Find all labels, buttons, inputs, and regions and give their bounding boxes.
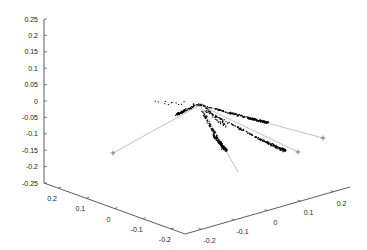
axes [44, 19, 350, 234]
right-tick [331, 191, 334, 192]
left-tick-label: 0 [107, 216, 111, 223]
left-tick-label: 0.1 [75, 205, 85, 212]
z-tick-label: 0.1 [28, 65, 38, 72]
left-tick [143, 218, 146, 219]
direction-line [200, 105, 238, 172]
right-tick-label: 0.1 [304, 209, 314, 216]
z-tick-label: 0.15 [24, 48, 38, 55]
z-tick-label: -0.1 [26, 130, 38, 137]
z-tick-label: 0.25 [24, 16, 38, 23]
direction-lines [111, 105, 326, 172]
left-tick [115, 208, 118, 209]
right-tick [298, 200, 301, 201]
z-tick-label: -0.25 [22, 180, 38, 187]
direction-line [200, 105, 298, 152]
left-tick-label: -0.1 [131, 226, 143, 233]
point-cloud [155, 101, 287, 153]
left-tick-label: 0.2 [47, 195, 57, 202]
right-tick-label: -0.2 [203, 237, 215, 244]
z-axis-ticks: 0.250.20.150.10.050-0.05-0.1-0.15-0.2-0.… [22, 16, 47, 187]
left-axis-ticks: 0.20.10-0.1-0.2 [47, 187, 174, 243]
right-tick-label: 0 [274, 219, 278, 226]
z-tick-label: -0.15 [22, 147, 38, 154]
left-tick [58, 187, 61, 188]
right-tick [232, 219, 235, 220]
z-tick-label: 0 [34, 98, 38, 105]
right-tick-label: -0.1 [236, 228, 248, 235]
plus-marker-icon [321, 136, 326, 141]
right-tick [265, 210, 268, 211]
plus-marker-icon [111, 151, 116, 156]
right-axis-ticks: -0.2-0.100.10.2 [199, 191, 347, 245]
right-tick-label: 0.2 [337, 200, 347, 207]
left-tick [171, 228, 174, 229]
z-tick-label: 0.05 [24, 81, 38, 88]
z-tick-label: -0.05 [22, 114, 38, 121]
z-tick-label: 0.2 [28, 32, 38, 39]
left-tick [86, 197, 89, 198]
direction-line [113, 105, 200, 153]
plus-marker-icon [296, 150, 301, 155]
right-tick [199, 228, 202, 229]
z-tick-label: -0.2 [26, 163, 38, 170]
3d-scatter-plot: 0.250.20.150.10.050-0.05-0.1-0.15-0.2-0.… [0, 0, 367, 250]
left-tick-label: -0.2 [159, 236, 171, 243]
